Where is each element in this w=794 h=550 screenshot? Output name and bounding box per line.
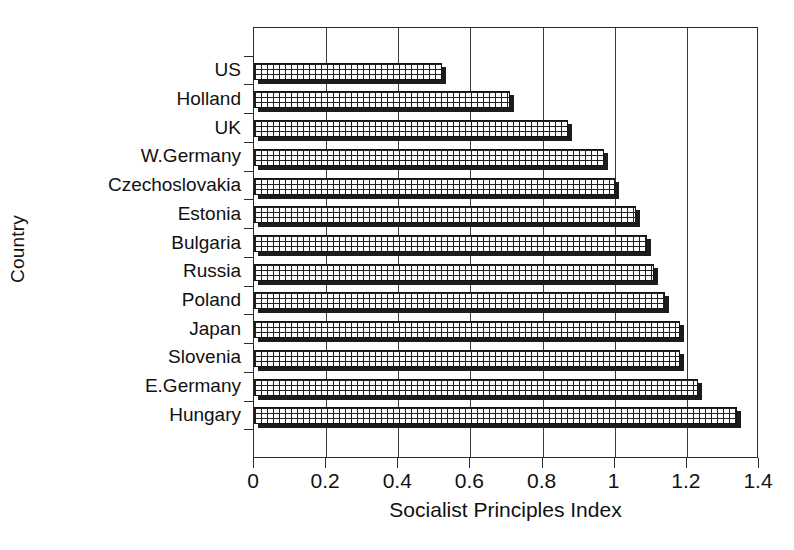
- bar-face: [254, 235, 647, 252]
- bar-face: [254, 149, 604, 166]
- y-category-label-japan: Japan: [189, 317, 241, 341]
- x-axis-tick-label-0.6: 0.6: [455, 469, 484, 493]
- y-axis-tick: [244, 199, 253, 200]
- bar-czechoslovakia: [254, 178, 615, 195]
- y-axis-category-labels: USHollandUKW.GermanyCzechoslovakiaEstoni…: [10, 27, 249, 458]
- y-category-label-uk: UK: [215, 116, 241, 140]
- y-category-label-estonia: Estonia: [178, 202, 241, 226]
- x-axis-tick-1: [614, 458, 615, 468]
- bar-estonia: [254, 206, 636, 223]
- y-axis-tick: [244, 113, 253, 114]
- y-category-label-hungary: Hungary: [169, 403, 241, 427]
- bar-w-germany: [254, 149, 604, 166]
- bar-us: [254, 63, 442, 80]
- y-axis-tick: [244, 56, 253, 57]
- y-axis-tick: [244, 429, 253, 430]
- y-category-label-e-germany: E.Germany: [145, 374, 241, 398]
- x-axis-tick-label-1: 1: [608, 469, 620, 493]
- bar-face: [254, 91, 510, 108]
- y-axis-tick: [244, 401, 253, 402]
- y-axis-tick: [244, 84, 253, 85]
- x-axis-tick-label-0.8: 0.8: [527, 469, 556, 493]
- x-axis-tick-0.8: [542, 458, 543, 468]
- bar-russia: [254, 264, 654, 281]
- y-category-label-us: US: [215, 58, 241, 82]
- y-category-label-bulgaria: Bulgaria: [171, 231, 241, 255]
- x-axis-title: Socialist Principles Index: [253, 498, 758, 522]
- x-axis-tick-0.4: [397, 458, 398, 468]
- y-category-label-russia: Russia: [183, 259, 241, 283]
- x-axis-tick-label-0.2: 0.2: [311, 469, 340, 493]
- x-axis-tick-1.4: [758, 458, 759, 468]
- y-axis-tick: [244, 343, 253, 344]
- y-axis-tick: [244, 372, 253, 373]
- x-axis-tick-0.2: [325, 458, 326, 468]
- bar-face: [254, 321, 680, 338]
- y-axis-tick: [244, 228, 253, 229]
- bar-face: [254, 178, 615, 195]
- y-axis-tick: [244, 286, 253, 287]
- y-axis-tick: [244, 257, 253, 258]
- bar-japan: [254, 321, 680, 338]
- bar-face: [254, 120, 568, 137]
- y-axis-tick: [244, 171, 253, 172]
- bar-bulgaria: [254, 235, 647, 252]
- bar-face: [254, 379, 698, 396]
- y-category-label-w-germany: W.Germany: [141, 144, 241, 168]
- bar-e-germany: [254, 379, 698, 396]
- y-category-label-czechoslovakia: Czechoslovakia: [108, 173, 241, 197]
- bar-holland: [254, 91, 510, 108]
- bar-poland: [254, 292, 665, 309]
- bar-chart-figure: Country USHollandUKW.GermanyCzechoslovak…: [0, 0, 794, 550]
- x-axis-tick-0.6: [469, 458, 470, 468]
- y-axis-tick: [244, 142, 253, 143]
- x-axis-tick-label-1.2: 1.2: [671, 469, 700, 493]
- x-axis-tick-label-1.4: 1.4: [743, 469, 772, 493]
- x-axis-tick-0: [253, 458, 254, 468]
- bar-face: [254, 350, 680, 367]
- bar-face: [254, 63, 442, 80]
- x-axis-tick-label-0.4: 0.4: [383, 469, 412, 493]
- y-category-label-poland: Poland: [182, 288, 241, 312]
- bar-face: [254, 206, 636, 223]
- x-axis-tick-1.2: [686, 458, 687, 468]
- bar-face: [254, 407, 737, 424]
- plot-area: [253, 27, 758, 458]
- bar-uk: [254, 120, 568, 137]
- bar-hungary: [254, 407, 737, 424]
- x-axis-tick-label-0: 0: [247, 469, 259, 493]
- bar-face: [254, 264, 654, 281]
- bar-slovenia: [254, 350, 680, 367]
- y-category-label-holland: Holland: [177, 87, 241, 111]
- bar-face: [254, 292, 665, 309]
- y-category-label-slovenia: Slovenia: [168, 345, 241, 369]
- y-axis-tick: [244, 314, 253, 315]
